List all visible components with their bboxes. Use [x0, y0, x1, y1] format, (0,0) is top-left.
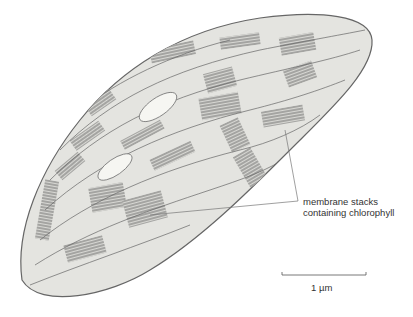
annotation-label: membrane stacks containing chlorophyll — [303, 196, 394, 218]
scale-bar-label: 1 µm — [311, 282, 332, 293]
annotation-line-2: containing chlorophyll — [303, 207, 394, 218]
scale-bar — [282, 272, 366, 275]
annotation-line-1: membrane stacks — [303, 196, 394, 207]
chloroplast-micrograph — [0, 0, 413, 317]
